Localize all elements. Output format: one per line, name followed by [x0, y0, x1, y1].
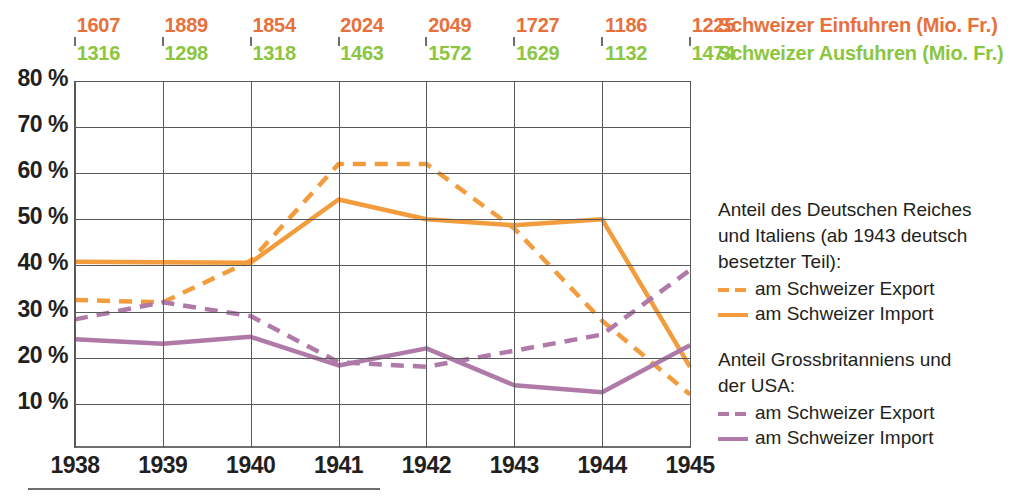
legend-group1-title-line2: und Italiens (ab 1943 deutsch [718, 224, 1008, 248]
legend-label-allies-export: am Schweizer Export [755, 401, 935, 425]
y-axis-labels: 80 %70 %60 %50 %40 %30 %20 %10 % [0, 81, 68, 448]
grid-line [75, 265, 690, 266]
grid-line [75, 81, 690, 82]
series-line [75, 270, 690, 367]
grid-line [75, 358, 690, 359]
chart-root: Schweizer Einfuhren (Mio. Fr.) 160718891… [0, 0, 1011, 500]
plot-area [75, 81, 690, 448]
x-axis-tick [602, 81, 603, 448]
y-axis-tick-label: 40 % [18, 249, 68, 276]
x-axis-tick-label: 1944 [557, 452, 647, 479]
x-axis-tick-label: 1942 [381, 452, 471, 479]
grid-line [75, 173, 690, 174]
import-value: 2049 [381, 14, 471, 37]
x-axis-tick [514, 81, 515, 448]
legend-item-germany-export[interactable]: am Schweizer Export [718, 276, 1008, 301]
x-axis-tick-label: 1943 [469, 452, 559, 479]
import-value: 2024 [294, 14, 384, 37]
import-row-label: Schweizer Einfuhren (Mio. Fr.) [718, 14, 998, 37]
series-line [75, 164, 690, 395]
value-column-tick [425, 37, 427, 46]
value-column-tick [250, 37, 252, 46]
x-axis-tick [251, 81, 252, 448]
import-value: 1225 [645, 14, 735, 37]
dashed-line-icon [718, 279, 748, 298]
value-column-tick [338, 37, 340, 46]
legend-label-germany-import: am Schweizer Import [755, 302, 933, 326]
import-value-row: Schweizer Einfuhren (Mio. Fr.) 160718891… [0, 14, 1011, 42]
import-value: 1186 [557, 14, 647, 37]
solid-line-icon [718, 304, 748, 323]
import-value: 1607 [30, 14, 120, 37]
legend-item-allies-import[interactable]: am Schweizer Import [718, 425, 1008, 450]
x-axis-tick-label: 1939 [118, 452, 208, 479]
x-axis-tick-label: 1941 [294, 452, 384, 479]
y-axis-tick-label: 70 % [18, 111, 68, 138]
import-value: 1854 [206, 14, 296, 37]
x-axis-tick [75, 81, 76, 448]
y-axis-tick-label: 10 % [18, 388, 68, 415]
legend: Anteil des Deutschen Reiches und Italien… [718, 198, 1008, 450]
x-axis-tick-label: 1938 [30, 452, 120, 479]
export-value-row: Schweizer Ausfuhren (Mio. Fr.) 131612981… [0, 42, 1011, 70]
import-value: 1889 [118, 14, 208, 37]
value-column-tick [513, 37, 515, 46]
legend-group1-title-line1: Anteil des Deutschen Reiches [718, 198, 1008, 222]
legend-group2-title-line1: Anteil Grossbritanniens und [718, 348, 1008, 372]
legend-item-allies-export[interactable]: am Schweizer Export [718, 400, 1008, 425]
y-axis-tick-label: 20 % [18, 342, 68, 369]
value-column-tick [601, 37, 603, 46]
y-axis-tick-label: 50 % [18, 203, 68, 230]
x-axis-tick-label: 1945 [645, 452, 735, 479]
value-column-tick [162, 37, 164, 46]
series-line [75, 337, 690, 392]
x-axis-tick [163, 81, 164, 448]
x-axis-tick [426, 81, 427, 448]
y-axis-tick-label: 60 % [18, 157, 68, 184]
value-column-tick [689, 37, 691, 46]
x-axis-tick-label: 1940 [206, 452, 296, 479]
x-axis-tick [339, 81, 340, 448]
dashed-line-icon [718, 403, 748, 422]
y-axis-tick-label: 80 % [18, 65, 68, 92]
legend-label-germany-export: am Schweizer Export [755, 277, 935, 301]
legend-group1-title-line3: besetzter Teil): [718, 250, 1008, 274]
value-table: Schweizer Einfuhren (Mio. Fr.) 160718891… [0, 0, 1011, 80]
grid-line [75, 127, 690, 128]
solid-line-icon [718, 428, 748, 447]
grid-line [75, 219, 690, 220]
x-axis-tick [690, 81, 691, 448]
legend-group2-title-line2: der USA: [718, 374, 1008, 398]
grid-line [75, 312, 690, 313]
import-value: 1727 [469, 14, 559, 37]
value-column-tick [74, 37, 76, 46]
bottom-rule [28, 488, 380, 490]
legend-label-allies-import: am Schweizer Import [755, 426, 933, 450]
y-axis-tick-label: 30 % [18, 296, 68, 323]
export-row-label: Schweizer Ausfuhren (Mio. Fr.) [718, 42, 1004, 65]
legend-item-germany-import[interactable]: am Schweizer Import [718, 301, 1008, 326]
grid-line [75, 404, 690, 405]
